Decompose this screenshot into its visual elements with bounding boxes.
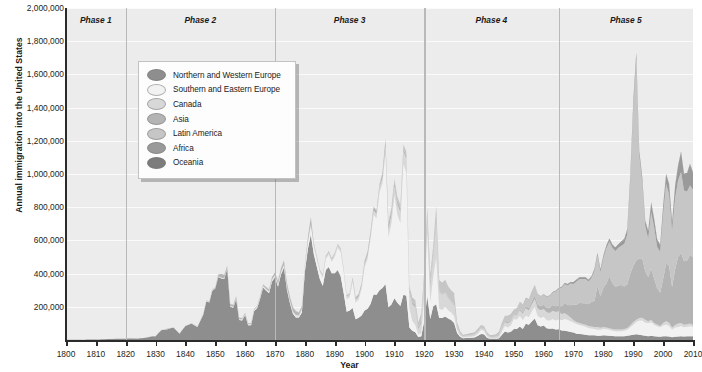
x-tick-label: 1800	[57, 349, 76, 359]
x-axis-line	[66, 340, 693, 342]
x-tick-label: 1820	[116, 349, 135, 359]
x-tick-mark	[484, 340, 486, 346]
x-tick-label: 1970	[564, 349, 583, 359]
phase-label: Phase 5	[610, 15, 642, 25]
legend-item-label: Africa	[173, 144, 194, 153]
y-tick-label: 800,000	[18, 203, 64, 211]
x-tick-mark	[544, 340, 546, 346]
legend: Northern and Western EuropeSouthern and …	[138, 61, 296, 179]
x-tick-mark	[633, 340, 635, 346]
x-tick-label: 1910	[385, 349, 404, 359]
x-tick-mark	[335, 340, 337, 346]
legend-list: Northern and Western EuropeSouthern and …	[139, 62, 295, 170]
legend-swatch-icon	[147, 157, 166, 169]
legend-item-label: Asia	[173, 115, 189, 124]
x-tick-mark	[663, 340, 665, 346]
x-tick-label: 1990	[624, 349, 643, 359]
phase-label: Phase 3	[334, 15, 366, 25]
x-tick-mark	[156, 340, 158, 346]
phase-divider-line	[424, 8, 425, 340]
x-tick-mark	[245, 340, 247, 346]
x-tick-label: 1900	[355, 349, 374, 359]
legend-item[interactable]: Northern and Western Europe	[147, 68, 295, 83]
y-tick-label: 1,400,000	[18, 104, 64, 112]
y-axis-line	[65, 8, 67, 342]
phase-label: Phase 1	[80, 15, 112, 25]
x-tick-mark	[126, 340, 128, 346]
x-tick-label: 1860	[236, 349, 255, 359]
legend-item[interactable]: Southern and Eastern Europe	[147, 83, 295, 98]
x-tick-label: 1940	[475, 349, 494, 359]
x-tick-mark	[215, 340, 217, 346]
x-tick-label: 1950	[505, 349, 524, 359]
x-axis-label: Year	[0, 360, 699, 370]
x-tick-mark	[305, 340, 307, 346]
y-tick-label: 1,800,000	[18, 37, 64, 45]
x-tick-mark	[693, 340, 695, 346]
x-tick-label: 1840	[176, 349, 195, 359]
y-tick-label: 1,000,000	[18, 170, 64, 178]
x-tick-mark	[185, 340, 187, 346]
x-tick-label: 1810	[87, 349, 106, 359]
x-tick-mark	[574, 340, 576, 346]
x-tick-label: 1890	[325, 349, 344, 359]
phase-divider-line	[126, 8, 127, 340]
x-tick-label: 1980	[594, 349, 613, 359]
x-tick-label: 1960	[534, 349, 553, 359]
x-tick-mark	[514, 340, 516, 346]
x-tick-label: 1880	[296, 349, 315, 359]
legend-swatch-icon	[147, 98, 166, 110]
legend-item[interactable]: Asia	[147, 112, 295, 127]
x-tick-mark	[603, 340, 605, 346]
legend-item[interactable]: Canada	[147, 97, 295, 112]
legend-item-label: Northern and Western Europe	[173, 71, 281, 80]
legend-swatch-icon	[147, 84, 166, 96]
x-tick-mark	[96, 340, 98, 346]
legend-item-label: Canada	[173, 100, 201, 109]
y-tick-label: 1,200,000	[18, 137, 64, 145]
x-tick-mark	[454, 340, 456, 346]
legend-swatch-icon	[147, 113, 166, 125]
y-tick-label: 2,000,000	[18, 4, 64, 12]
x-tick-mark	[394, 340, 396, 346]
y-tick-label: 1,600,000	[18, 70, 64, 78]
x-tick-mark	[424, 340, 426, 346]
y-tick-label: 200,000	[18, 303, 64, 311]
x-tick-mark	[66, 340, 68, 346]
legend-item-label: Oceania	[173, 158, 203, 167]
x-tick-label: 1870	[266, 349, 285, 359]
legend-item[interactable]: Latin America	[147, 126, 295, 141]
x-tick-mark	[365, 340, 367, 346]
phase-label: Phase 4	[476, 15, 508, 25]
legend-swatch-icon	[147, 142, 166, 154]
x-tick-label: 1850	[206, 349, 225, 359]
legend-item-label: Latin America	[173, 129, 222, 138]
x-tick-label: 2000	[654, 349, 673, 359]
x-tick-mark	[275, 340, 277, 346]
x-tick-label: 1920	[415, 349, 434, 359]
legend-item[interactable]: Oceania	[147, 156, 295, 171]
legend-item-label: Southern and Eastern Europe	[173, 85, 280, 94]
legend-swatch-icon	[147, 128, 166, 140]
phase-divider-line	[559, 8, 560, 340]
phase-label: Phase 2	[185, 15, 217, 25]
x-tick-label: 1930	[445, 349, 464, 359]
x-tick-label: 2010	[684, 349, 702, 359]
y-axis-tick-labels: 200,000400,000600,000800,0001,000,0001,2…	[18, 0, 64, 340]
legend-swatch-icon	[147, 69, 166, 81]
legend-item[interactable]: Africa	[147, 141, 295, 156]
x-tick-label: 1830	[146, 349, 165, 359]
y-tick-label: 600,000	[18, 236, 64, 244]
y-tick-label: 400,000	[18, 270, 64, 278]
